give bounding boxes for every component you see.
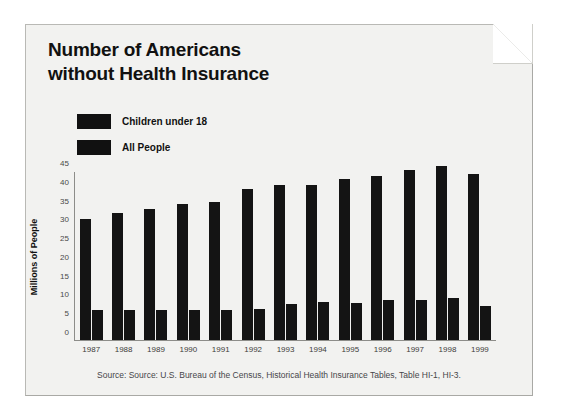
x-tick-label: 1999 (471, 345, 489, 354)
bar-children-under-18 (480, 306, 491, 340)
bar-group: 1995 (334, 172, 366, 340)
x-axis-line (74, 340, 496, 341)
bar-group: 1992 (237, 172, 269, 340)
x-tick-label: 1996 (374, 345, 392, 354)
source-note: Source: Source: U.S. Bureau of the Censu… (25, 370, 533, 380)
legend-item-children: Children under 18 (77, 112, 207, 130)
bar-all-people (404, 170, 415, 340)
legend-item-all-people: All People (77, 138, 207, 156)
bar-all-people (209, 202, 220, 340)
bar-group: 1989 (140, 172, 172, 340)
bar-children-under-18 (351, 303, 362, 340)
plot-area: Millions of People 051015202530354045 19… (74, 172, 496, 341)
bar-children-under-18 (286, 304, 297, 340)
legend-label-children: Children under 18 (122, 116, 207, 127)
bar-group: 1994 (302, 172, 334, 340)
bar-group: 1990 (172, 172, 204, 340)
bar-children-under-18 (124, 310, 135, 340)
bar-all-people (242, 189, 253, 340)
bar-all-people (436, 166, 447, 340)
y-tick-label: 25 (60, 234, 69, 243)
bar-children-under-18 (254, 309, 265, 340)
chart-card: Number of Americans without Health Insur… (25, 24, 533, 396)
bar-group: 1999 (464, 172, 496, 340)
bar-all-people (371, 176, 382, 340)
chart-legend: Children under 18 All People (77, 112, 207, 164)
bar-group: 1991 (205, 172, 237, 340)
bar-all-people (306, 185, 317, 340)
x-tick-label: 1994 (309, 345, 327, 354)
page-fold-edge-vertical (532, 24, 533, 64)
x-tick-label: 1993 (277, 345, 295, 354)
bar-group: 1997 (399, 172, 431, 340)
chart-title-line-1: Number of Americans (48, 38, 378, 62)
y-tick-label: 45 (60, 159, 69, 168)
x-tick-label: 1989 (147, 345, 165, 354)
bar-all-people (80, 219, 91, 340)
bar-all-people (144, 209, 155, 340)
bar-all-people (112, 213, 123, 340)
y-tick-label: 30 (60, 215, 69, 224)
page-fold-edge-horizontal (493, 63, 533, 64)
bar-children-under-18 (318, 302, 329, 340)
bar-group: 1996 (367, 172, 399, 340)
x-tick-label: 1995 (341, 345, 359, 354)
bar-children-under-18 (416, 300, 427, 340)
y-tick-label: 5 (65, 309, 69, 318)
y-tick-label: 35 (60, 196, 69, 205)
chart-title-line-2: without Health Insurance (48, 62, 378, 86)
page-fold-corner (493, 24, 533, 64)
bar-children-under-18 (221, 310, 232, 340)
bar-children-under-18 (156, 310, 167, 340)
bar-children-under-18 (189, 310, 200, 340)
x-tick-label: 1997 (406, 345, 424, 354)
y-axis-title: Millions of People (29, 218, 39, 295)
x-tick-label: 1991 (212, 345, 230, 354)
bar-children-under-18 (448, 298, 459, 340)
legend-label-all-people: All People (122, 142, 170, 153)
y-tick-label: 20 (60, 252, 69, 261)
bar-group: 1998 (431, 172, 463, 340)
bar-children-under-18 (92, 310, 103, 340)
chart-title: Number of Americans without Health Insur… (48, 38, 378, 87)
x-tick-label: 1992 (244, 345, 262, 354)
bar-all-people (339, 179, 350, 340)
legend-swatch-all-people (77, 140, 111, 155)
bar-group: 1987 (75, 172, 107, 340)
x-tick-label: 1988 (115, 345, 133, 354)
bar-all-people (177, 204, 188, 340)
bar-all-people (468, 174, 479, 340)
x-tick-label: 1998 (439, 345, 457, 354)
y-tick-label: 0 (65, 328, 69, 337)
bar-all-people (274, 185, 285, 340)
y-tick-label: 10 (60, 290, 69, 299)
x-tick-label: 1990 (179, 345, 197, 354)
legend-swatch-children (77, 114, 111, 129)
bar-groups: 1987198819891990199119921993199419951996… (75, 172, 496, 340)
y-tick-label: 40 (60, 177, 69, 186)
bar-group: 1988 (107, 172, 139, 340)
bar-group: 1993 (269, 172, 301, 340)
y-tick-label: 15 (60, 271, 69, 280)
x-tick-label: 1987 (82, 345, 100, 354)
bar-children-under-18 (383, 300, 394, 340)
